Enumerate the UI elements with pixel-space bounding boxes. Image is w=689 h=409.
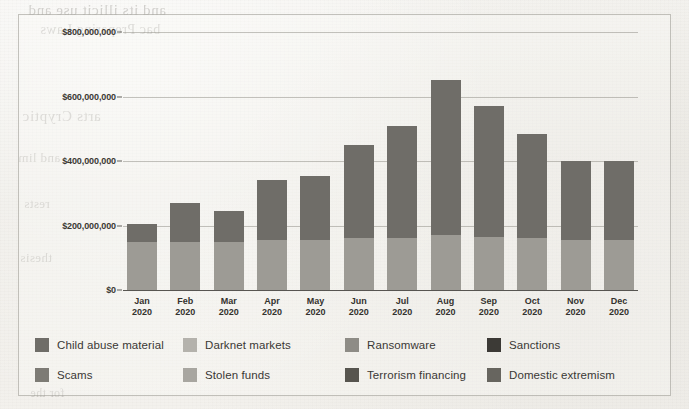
bar-segment-upper [257,180,287,240]
legend-swatch-icon [487,368,501,382]
bar [300,176,330,290]
bar [170,203,200,290]
x-axis-label: Jun2020 [349,296,369,318]
legend-swatch-icon [487,338,501,352]
legend-item[interactable]: Scams [35,368,93,382]
bar [257,180,287,290]
bar-slot: Jul2020 [387,32,417,290]
y-tick-mark-800000000 [117,32,122,33]
legend-item[interactable]: Child abuse material [35,338,164,352]
legend-row-2: ScamsStolen fundsTerrorism financingDome… [35,360,657,390]
bar [344,145,374,290]
y-axis-label: $800,000,000 [62,27,116,37]
bar-group: Jan2020Feb2020Mar2020Apr2020May2020Jun20… [123,32,638,290]
y-axis-label: $0 [106,285,116,295]
y-axis-label: $600,000,000 [62,92,116,102]
bar-segment-upper [127,224,157,242]
bar-slot: May2020 [300,32,330,290]
bar-segment-lower [214,242,244,290]
bar [517,134,547,290]
x-axis-label: Feb2020 [175,296,195,318]
legend-label: Child abuse material [57,339,164,351]
bar [561,161,591,290]
legend-item[interactable]: Sanctions [487,338,560,352]
bar-segment-upper [517,134,547,239]
bar-slot: Jun2020 [344,32,374,290]
x-axis-label: Aug2020 [436,296,456,318]
y-tick-mark-600000000 [117,96,122,97]
legend-item[interactable]: Ransomware [345,338,436,352]
bar-segment-upper [604,161,634,240]
bar-segment-upper [214,211,244,242]
x-axis-label: Oct2020 [522,296,542,318]
y-tick-mark-400000000 [117,161,122,162]
bar-segment-lower [387,238,417,290]
legend-item[interactable]: Domestic extremism [487,368,615,382]
bar-slot: Nov2020 [561,32,591,290]
bar-segment-lower [257,240,287,290]
bar-segment-upper [170,203,200,242]
y-tick-mark-0 [117,290,122,291]
x-axis-label: Jan2020 [132,296,152,318]
bar-segment-lower [344,238,374,290]
gridline-0 [123,290,638,291]
bar-slot: Feb2020 [170,32,200,290]
bar [214,211,244,290]
y-axis-label: $400,000,000 [62,156,116,166]
bar-segment-upper [300,176,330,241]
legend-label: Darknet markets [205,339,291,351]
y-tick-mark-200000000 [117,225,122,226]
bar-slot: Sep2020 [474,32,504,290]
legend-label: Domestic extremism [509,369,615,381]
legend-label: Scams [57,369,93,381]
x-axis-label: May2020 [305,296,325,318]
bar-slot: Mar2020 [214,32,244,290]
bar-segment-lower [170,242,200,290]
bar [474,106,504,290]
legend-label: Stolen funds [205,369,270,381]
bar [387,126,417,290]
legend-swatch-icon [183,368,197,382]
x-axis-label: Dec2020 [609,296,629,318]
x-axis-label: Nov2020 [566,296,586,318]
bar-slot: Apr2020 [257,32,287,290]
legend-item[interactable]: Stolen funds [183,368,270,382]
x-axis-label: Apr2020 [262,296,282,318]
legend-swatch-icon [345,338,359,352]
legend-row-1: Child abuse materialDarknet marketsRanso… [35,330,657,360]
legend-label: Sanctions [509,339,560,351]
bar-segment-upper [431,80,461,235]
bar-segment-lower [474,237,504,290]
legend-item[interactable]: Darknet markets [183,338,291,352]
bar-segment-upper [387,126,417,239]
bar-segment-upper [474,106,504,237]
bar-segment-upper [344,145,374,239]
legend-swatch-icon [35,368,49,382]
x-axis-label: Mar2020 [219,296,239,318]
chart-figure: $0$200,000,000$400,000,000$600,000,000$8… [18,14,671,396]
legend-item[interactable]: Terrorism financing [345,368,466,382]
bar-segment-lower [127,242,157,290]
legend-swatch-icon [183,338,197,352]
bar-segment-lower [431,235,461,290]
bar-segment-lower [300,240,330,290]
bar-slot: Aug2020 [431,32,461,290]
bar-slot: Jan2020 [127,32,157,290]
x-axis-label: Jul2020 [392,296,412,318]
bar-segment-lower [561,240,591,290]
legend-swatch-icon [345,368,359,382]
bar-segment-upper [561,161,591,240]
legend-swatch-icon [35,338,49,352]
bar-slot: Dec2020 [604,32,634,290]
plot-area: $0$200,000,000$400,000,000$600,000,000$8… [123,32,638,290]
chart-legend: Child abuse materialDarknet marketsRanso… [35,330,657,390]
bar [127,224,157,290]
bar-segment-lower [517,238,547,290]
bar [431,80,461,290]
y-axis-label: $200,000,000 [62,221,116,231]
legend-label: Terrorism financing [367,369,466,381]
legend-label: Ransomware [367,339,436,351]
bar [604,161,634,290]
x-axis-label: Sep2020 [479,296,499,318]
bar-segment-lower [604,240,634,290]
